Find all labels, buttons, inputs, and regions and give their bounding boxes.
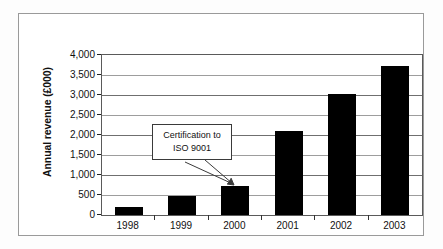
y-axis-tick-labels: 05001,0001,5002,0002,5003,0003,5004,000 [55, 48, 95, 220]
bar-slot [369, 55, 422, 215]
bar [221, 186, 249, 215]
y-axis-tick-label: 500 [55, 189, 95, 200]
bar [115, 207, 143, 215]
x-axis-tick-label: 1999 [151, 220, 211, 231]
bar [168, 196, 196, 215]
x-axis-tick-labels: 199819992000200120022003 [101, 220, 423, 238]
bar-slot [262, 55, 315, 215]
x-axis-tick-label: 2003 [364, 220, 424, 231]
y-axis-tick-label: 0 [55, 209, 95, 220]
bar-series [102, 55, 422, 215]
chart-figure: Annual revenue (£000) 05001,0001,5002,00… [0, 0, 443, 249]
bar-slot [102, 55, 155, 215]
y-axis-tick-label: 1,000 [55, 169, 95, 180]
y-axis-tick-label: 2,500 [55, 109, 95, 120]
y-axis-tick-label: 3,500 [55, 69, 95, 80]
bar-slot [315, 55, 368, 215]
y-axis-title: Annual revenue (£000) [41, 47, 53, 197]
bar [275, 131, 303, 215]
x-axis-tick-label: 2002 [311, 220, 371, 231]
callout-line-2: ISO 9001 [173, 142, 211, 155]
y-axis-tick-label: 3,000 [55, 89, 95, 100]
iso-certification-callout: Certification to ISO 9001 [152, 124, 232, 160]
x-axis-tick-label: 2000 [204, 220, 264, 231]
figure-frame: Annual revenue (£000) 05001,0001,5002,00… [18, 13, 424, 236]
y-axis-tick-label: 1,500 [55, 149, 95, 160]
y-axis-tick-label: 4,000 [55, 49, 95, 60]
plot-area [101, 54, 423, 216]
bar [381, 66, 409, 215]
x-axis-tick-label: 1998 [98, 220, 158, 231]
bar [328, 94, 356, 215]
x-axis-tick-label: 2001 [258, 220, 318, 231]
y-axis-tick-label: 2,000 [55, 129, 95, 140]
callout-line-1: Certification to [163, 129, 221, 142]
